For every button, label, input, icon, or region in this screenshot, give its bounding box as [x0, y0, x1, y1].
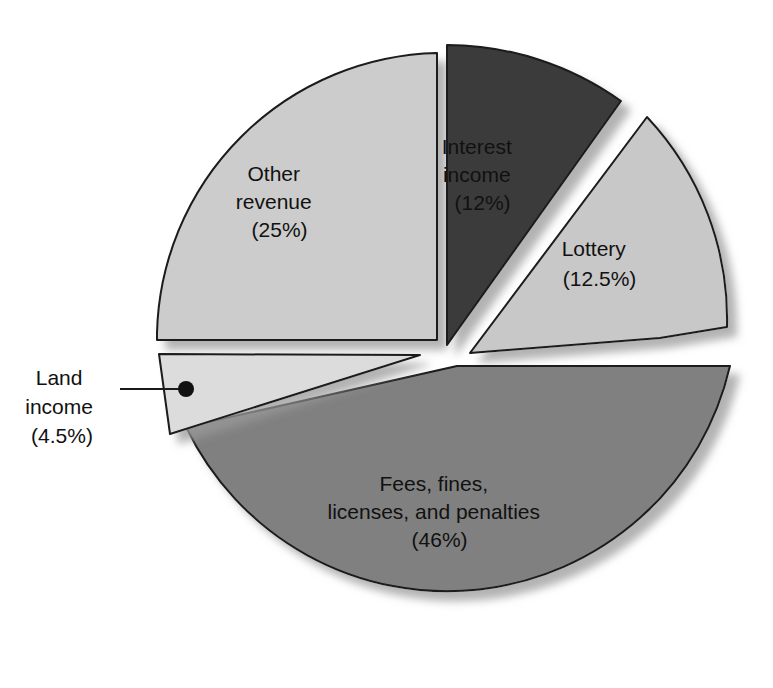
pie-slice-other-revenue[interactable]: Other revenue (25%): [157, 53, 437, 340]
pie-chart-figure: Other revenue (25%) Interest income (12%…: [0, 0, 773, 688]
land-income-callout-label: Land income (4.5%): [25, 366, 99, 447]
land-income-marker-dot: [178, 381, 194, 397]
pie-slice-interest-income-label: Interest income (12%): [442, 135, 565, 214]
pie-slice-other-revenue-label: Other revenue (25%): [236, 162, 364, 241]
pie-chart-svg: Other revenue (25%) Interest income (12%…: [0, 0, 773, 688]
